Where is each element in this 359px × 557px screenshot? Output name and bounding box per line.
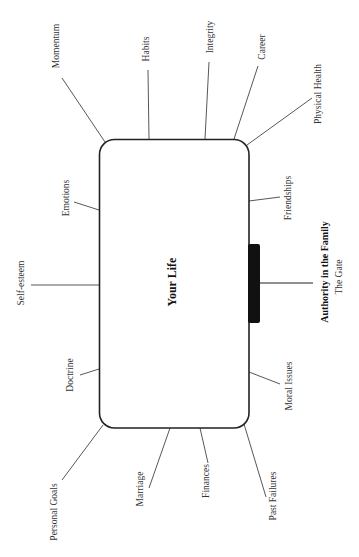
life-diagram: Your Life Authority in the Family The Ga… [0, 0, 359, 557]
spoke-line-moral-issues [249, 372, 280, 384]
gate-subtitle-label: The Gate [334, 259, 344, 294]
spoke-line-doctrine [80, 369, 99, 375]
spoke-line-marriage [149, 428, 170, 488]
label-past-failures: Past Failures [268, 471, 278, 520]
spoke-line-habits [148, 70, 149, 139]
gate-title-label: Authority in the Family [319, 221, 330, 322]
spoke-line-friendships [249, 197, 280, 201]
spoke-line-finances [200, 428, 208, 463]
spoke-line-momentum [62, 78, 105, 142]
center-label: Your Life [165, 257, 179, 306]
label-momentum: Momentum [51, 23, 61, 68]
label-self-esteem: Self-esteem [16, 260, 26, 305]
label-doctrine: Doctrine [65, 358, 75, 391]
label-career: Career [257, 34, 267, 60]
label-marriage: Marriage [135, 472, 145, 507]
spoke-line-past-failures [244, 424, 266, 497]
spoke-line-integrity [205, 62, 209, 139]
label-habits: Habits [141, 36, 151, 61]
spoke-line-personal-goals [62, 425, 103, 480]
spoke-line-physical-health [247, 98, 312, 145]
gate-block [248, 244, 260, 323]
label-finances: Finances [201, 464, 211, 498]
label-personal-goals: Personal Goals [49, 483, 59, 541]
spoke-line-career [234, 66, 258, 139]
spoke-line-emotions [74, 202, 99, 210]
label-friendships: Friendships [283, 176, 293, 221]
label-emotions: Emotions [61, 179, 71, 216]
label-integrity: Integrity [205, 20, 215, 53]
label-moral-issues: Moral Issues [284, 361, 294, 410]
label-physical-health: Physical Health [313, 64, 323, 124]
